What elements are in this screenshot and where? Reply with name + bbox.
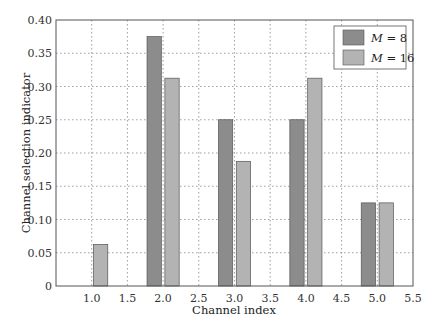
bar-m16: [93, 244, 107, 286]
bars: [93, 37, 393, 286]
legend-label-m16: M = 16: [370, 51, 414, 65]
y-tick-label: 0.05: [28, 247, 53, 260]
x-tick-label: 1.5: [119, 292, 137, 305]
legend: M = 8 M = 16: [334, 26, 414, 69]
x-tick-label: 5.5: [404, 292, 422, 305]
y-tick-label: 0.40: [28, 14, 53, 27]
x-tick-label: 4.0: [297, 292, 315, 305]
y-tick-label: 0: [45, 280, 52, 293]
bar-m8: [147, 37, 161, 286]
bar-m8: [290, 120, 304, 286]
bar-m16: [165, 78, 179, 286]
x-axis-label: Channel index: [192, 303, 276, 317]
bar-m8: [218, 120, 232, 286]
bar-m16: [308, 78, 322, 286]
x-tick-label: 5.0: [369, 292, 387, 305]
x-tick-label: 2.0: [154, 292, 172, 305]
y-tick-label: 0.35: [28, 47, 53, 60]
bar-m16: [236, 161, 250, 286]
legend-swatch-m16: [343, 50, 364, 65]
legend-swatch-m8: [343, 30, 364, 45]
bar-m8: [361, 203, 375, 286]
x-tick-label: 1.0: [83, 292, 101, 305]
y-axis-label: Channel selection indicator: [19, 72, 33, 233]
bar-chart: 1.01.52.02.53.03.54.04.55.05.5 00.050.10…: [0, 0, 439, 329]
x-tick-label: 4.5: [333, 292, 351, 305]
legend-label-m8: M = 8: [370, 31, 407, 45]
bar-m16: [379, 203, 393, 286]
